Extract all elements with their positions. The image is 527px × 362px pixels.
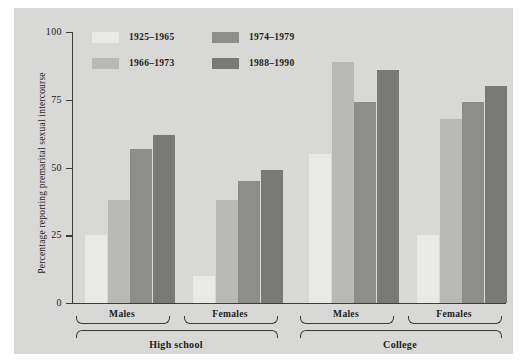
bar-1988–1990-College-Males	[377, 70, 399, 303]
bracket-highschool-males	[76, 316, 170, 324]
bar-1988–1990-High school-Males	[153, 135, 175, 303]
bracket-highschool-females	[184, 316, 278, 324]
bar-1988–1990-High school-Females	[261, 170, 283, 303]
legend-swatch-1925-1965	[92, 32, 119, 43]
y-tick-75	[66, 100, 72, 101]
y-tick-label-100: 100	[36, 26, 62, 37]
bar-1974–1979-College-Females	[462, 102, 484, 303]
x-axis-line	[72, 303, 506, 304]
bar-1974–1979-High school-Females	[238, 181, 260, 303]
bar-1966–1973-College-Females	[440, 119, 462, 303]
bar-1925–1965-High school-Females	[193, 276, 215, 303]
legend-swatch-1988-1990	[212, 58, 239, 69]
legend-label-1974-1979: 1974–1979	[249, 32, 294, 42]
legend-item-1988-1990: 1988–1990	[212, 56, 294, 70]
bar-1925–1965-High school-Males	[85, 235, 107, 303]
bar-1966–1973-High school-Males	[108, 200, 130, 303]
bar-1925–1965-College-Males	[309, 154, 331, 303]
y-tick-50	[66, 168, 72, 169]
legend-label-1988-1990: 1988–1990	[249, 58, 294, 68]
y-tick-25	[66, 235, 72, 236]
y-axis-title: Percentage reporting premarital sexual i…	[37, 43, 47, 303]
legend-item-1966-1973: 1966–1973	[92, 56, 174, 70]
bar-1988–1990-College-Females	[485, 86, 507, 303]
bar-1974–1979-College-Males	[354, 102, 376, 303]
bracket-wide-highschool	[76, 330, 278, 338]
y-tick-100	[66, 32, 72, 33]
bracket-college-females	[408, 316, 502, 324]
x-super-label-highschool: High school	[76, 339, 276, 350]
legend-label-1966-1973: 1966–1973	[129, 58, 174, 68]
legend-label-1925-1965: 1925–1965	[129, 32, 174, 42]
chart-legend: 1925–1965 1966–1973 1974–1979 1988–1990	[92, 30, 322, 76]
bar-1966–1973-College-Males	[332, 62, 354, 303]
legend-swatch-1974-1979	[212, 32, 239, 43]
bar-1925–1965-College-Females	[417, 235, 439, 303]
bar-1966–1973-High school-Females	[216, 200, 238, 303]
legend-item-1974-1979: 1974–1979	[212, 30, 294, 44]
chart-figure: 100 75 50 25 0 Percentage reporting prem…	[0, 0, 527, 362]
x-super-label-college: College	[300, 339, 500, 350]
legend-item-1925-1965: 1925–1965	[92, 30, 174, 44]
y-tick-0	[66, 303, 72, 304]
bracket-college-males	[300, 316, 394, 324]
bracket-wide-college	[300, 330, 502, 338]
bar-1974–1979-High school-Males	[130, 149, 152, 303]
legend-swatch-1966-1973	[92, 58, 119, 69]
